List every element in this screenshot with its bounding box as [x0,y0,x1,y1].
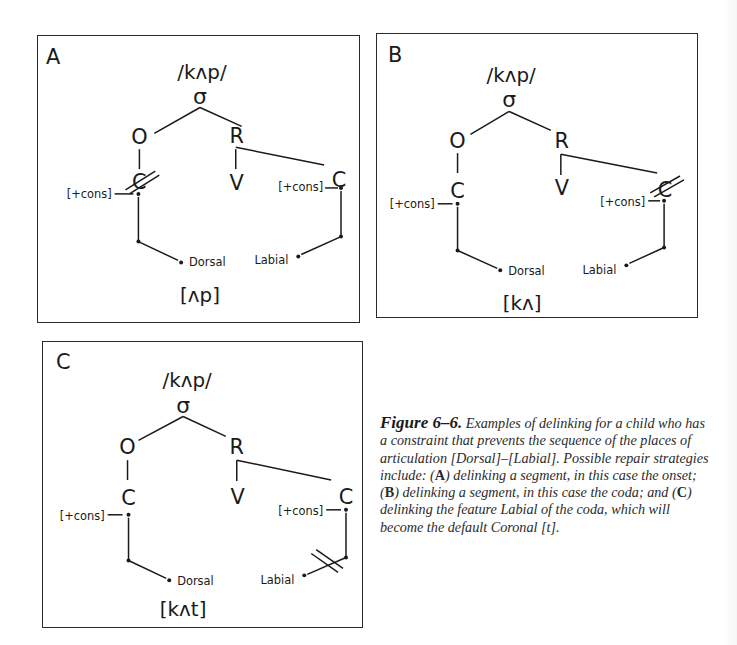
output-form: [ʌp] [180,284,220,307]
coda-place-label: Labial [254,253,288,267]
syllable-node: σ [176,393,190,418]
panel-label: C [56,350,71,374]
vowel-node: V [230,171,245,195]
underlying-form: /kʌp/ [162,369,212,392]
output-form: [kʌ] [503,292,542,315]
onset-feature-label: [+cons] [390,197,435,211]
onset-place-label: Dorsal [508,264,545,278]
rime-node: R [229,124,243,148]
tree-diagram-c: C /kʌp/ σ O R C V C [+cons] Dorsal [+con… [43,342,362,627]
onset-node: O [119,435,135,459]
rime-node: R [555,129,569,153]
labial-dot [302,573,306,577]
panel-c: C /kʌp/ σ O R C V C [+cons] Dorsal [+con… [42,341,363,628]
branch-syllable-onset [154,108,200,134]
tree-diagram-a: A /kʌp/ σ O R C V C [+cons] Dorsal [+con… [38,36,359,322]
onset-place-label: Dorsal [177,574,214,588]
figure-label: Figure 6–6. [380,413,462,432]
onset-node: O [449,129,465,153]
coda-place-label: Labial [583,263,617,277]
root-node-dot [339,186,343,190]
coda-feature-label: [+cons] [278,180,323,194]
root-node-dot [127,513,131,517]
root-node-dot [136,192,140,196]
dorsal-dot [167,578,171,582]
tree-diagram-b: B /kʌp/ σ O R C V C [+cons] Dorsal [+con… [377,34,697,317]
vowel-node: V [555,176,570,200]
panel-label: A [46,45,61,69]
branch-line [129,560,167,578]
rime-node: R [230,435,244,459]
caption-text: ) delinking a segment, in this case the … [394,484,677,500]
branch-syllable-rime [509,111,551,130]
panel-a: A /kʌp/ σ O R C V C [+cons] Dorsal [+con… [37,35,360,323]
branch-line [629,247,664,263]
branch-rime-coda [561,154,657,173]
dorsal-dot [179,260,183,264]
root-node-dot [662,199,666,203]
branch-syllable-rime [183,416,226,436]
caption-ref-b: B [385,484,394,500]
onset-node: O [131,125,147,149]
vowel-node: V [231,485,246,509]
branch-syllable-onset [138,416,183,440]
syllable-node: σ [502,87,516,112]
onset-feature-label: [+cons] [67,187,112,201]
branch-syllable-onset [470,111,509,134]
root-node-dot [344,508,348,512]
output-form: [kʌt] [160,598,207,621]
figure-caption: Figure 6–6. Examples of delinking for a … [380,414,710,536]
dorsal-dot [498,268,502,272]
caption-ref-a: A [435,467,445,483]
branch-line [138,242,178,261]
labial-dot [296,254,300,258]
underlying-form: /kʌp/ [177,61,227,84]
underlying-form: /kʌp/ [487,64,537,87]
labial-dot [624,263,628,267]
panel-label: B [388,43,402,67]
branch-line [458,250,498,268]
coda-feature-label: [+cons] [278,504,323,518]
root-node-dot [456,202,460,206]
caption-ref-c: C [677,484,687,500]
syllable-node: σ [193,84,207,109]
coda-place-label: Labial [260,573,294,587]
coda-feature-label: [+cons] [600,195,645,209]
branch-rime-coda [236,147,324,165]
branch-rime-coda [237,460,331,480]
onset-segment-node: C [121,486,136,510]
page-edge [723,0,737,645]
panel-b: B /kʌp/ σ O R C V C [+cons] Dorsal [+con… [376,33,698,318]
onset-feature-label: [+cons] [60,509,105,523]
onset-place-label: Dorsal [189,255,226,269]
branch-line [301,237,341,255]
coda-segment-node: C [339,485,354,509]
onset-segment-node: C [450,179,465,203]
